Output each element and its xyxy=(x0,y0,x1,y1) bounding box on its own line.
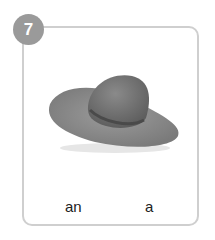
option-a[interactable]: a xyxy=(145,198,153,215)
option-an[interactable]: an xyxy=(65,198,82,215)
question-number-badge: 7 xyxy=(13,14,44,45)
hat-image xyxy=(40,66,185,156)
